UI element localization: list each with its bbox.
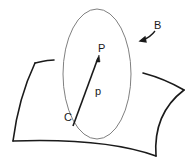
label-body-b: B [154,19,161,31]
label-position-vector-p: p [95,85,101,97]
surface-left-edge [13,63,35,141]
diagram-canvas: B P p C [0,0,195,166]
surface-top-left-edge [35,60,54,63]
label-point-p: P [98,42,105,54]
surface-right-edge [156,90,184,156]
body-ellipse [63,9,131,139]
surface-top-right-edge [143,73,184,90]
label-origin-c: C [64,111,72,123]
surface-bottom-edge [13,141,156,156]
surface [13,60,184,156]
body-pointer-arrow [140,31,155,42]
